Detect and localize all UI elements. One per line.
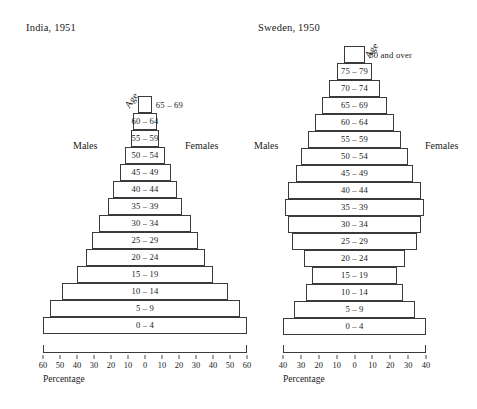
pyramid-bar: 10 – 14 bbox=[62, 283, 229, 300]
age-group-label: 20 – 24 bbox=[131, 253, 158, 262]
pyramid-bar-row: 15 – 19 bbox=[283, 267, 426, 284]
pyramid-bar-row: 60 – 64 bbox=[283, 114, 426, 131]
pyramid-bar-row: 15 – 19 bbox=[43, 266, 247, 283]
pyramid-bar-row: 0 – 4 bbox=[43, 317, 247, 334]
pyramid-bar: 0 – 4 bbox=[43, 317, 247, 334]
pyramid-bar: 35 – 39 bbox=[285, 199, 424, 216]
pyramid-bar: 15 – 19 bbox=[312, 267, 398, 284]
pyramid-bar-row: 25 – 29 bbox=[283, 233, 426, 250]
pyramid-bar: 25 – 29 bbox=[292, 233, 417, 250]
pyramid-bar-row: 40 – 44 bbox=[43, 181, 247, 198]
age-group-label: 35 – 39 bbox=[131, 202, 158, 211]
age-group-label: 10 – 14 bbox=[131, 287, 158, 296]
pyramid-bar-row: 30 – 34 bbox=[43, 215, 247, 232]
age-group-label: 25 – 29 bbox=[131, 236, 158, 245]
axis-tick-label: 10 bbox=[124, 361, 132, 370]
axis-tick bbox=[162, 355, 163, 359]
axis-tick bbox=[213, 355, 214, 359]
axis-tick-label: 10 bbox=[158, 361, 166, 370]
axis-tick-label: 0 bbox=[143, 361, 147, 370]
pyramid-panel-india: India, 1951 Age Males Females 0 – 45 – 9… bbox=[0, 0, 250, 409]
pyramid-bar: 40 – 44 bbox=[113, 181, 178, 198]
pyramid-bar: 25 – 29 bbox=[92, 232, 197, 249]
pyramid-bar: 0 – 4 bbox=[283, 318, 426, 335]
axis-caption-sweden: Percentage bbox=[283, 374, 325, 384]
pyramid-bar: 75 – 79 bbox=[337, 63, 373, 80]
pyramid-bar: 30 – 34 bbox=[99, 215, 191, 232]
age-group-label: 65 – 69 bbox=[341, 101, 368, 110]
pyramid-bar: 20 – 24 bbox=[86, 249, 205, 266]
axis-cap-right bbox=[425, 345, 426, 353]
age-group-label: 65 – 69 bbox=[156, 100, 183, 109]
age-group-label: 40 – 44 bbox=[131, 185, 158, 194]
age-group-label: 0 – 4 bbox=[136, 321, 154, 330]
axis-tick-label: 30 bbox=[297, 361, 305, 370]
axis-tick bbox=[76, 355, 77, 359]
pyramid-bar: 50 – 54 bbox=[301, 148, 408, 165]
pyramid-bar: 80 and over bbox=[344, 46, 365, 63]
age-group-label: 50 – 54 bbox=[131, 151, 158, 160]
age-group-label: 45 – 49 bbox=[131, 168, 158, 177]
pyramid-bar-row: 70 – 74 bbox=[283, 80, 426, 97]
pyramid-bar: 60 – 64 bbox=[133, 113, 157, 130]
pyramid-bar: 55 – 59 bbox=[131, 130, 158, 147]
age-group-label: 55 – 59 bbox=[131, 134, 158, 143]
pyramid-bar: 15 – 19 bbox=[77, 266, 213, 283]
axis-cap-right bbox=[246, 345, 247, 353]
axis-tick bbox=[128, 355, 129, 359]
age-group-label: 70 – 74 bbox=[341, 84, 368, 93]
age-group-label: 5 – 9 bbox=[345, 305, 363, 314]
axis-tick-label: 40 bbox=[73, 361, 81, 370]
age-group-label: 75 – 79 bbox=[341, 67, 368, 76]
pyramid-bar-row: 10 – 14 bbox=[43, 283, 247, 300]
age-group-label: 60 – 64 bbox=[131, 117, 158, 126]
pyramid-bar-row: 0 – 4 bbox=[283, 318, 426, 335]
chart-title-sweden: Sweden, 1950 bbox=[258, 22, 320, 33]
pyramid-bar: 65 – 69 bbox=[322, 97, 386, 114]
pyramid-bars-india: 0 – 45 – 910 – 1415 – 1920 – 2425 – 2930… bbox=[43, 96, 247, 334]
axis-tick-label: 50 bbox=[226, 361, 234, 370]
axis-tick bbox=[390, 355, 391, 359]
age-group-label: 55 – 59 bbox=[341, 135, 368, 144]
axis-tick bbox=[43, 355, 44, 359]
axis-tick-label: 10 bbox=[332, 361, 340, 370]
axis-tick-label: 40 bbox=[279, 361, 287, 370]
axis-tick-label: 30 bbox=[404, 361, 412, 370]
pyramid-bar-row: 5 – 9 bbox=[283, 301, 426, 318]
axis-tick bbox=[196, 355, 197, 359]
age-group-label: 5 – 9 bbox=[136, 304, 154, 313]
pyramid-bar: 45 – 49 bbox=[120, 164, 171, 181]
axis-tick bbox=[300, 355, 301, 359]
axis-tick-label: 40 bbox=[209, 361, 217, 370]
pyramid-bars-sweden: 0 – 45 – 910 – 1415 – 1920 – 2425 – 2930… bbox=[283, 46, 426, 335]
axis-tick-label: 20 bbox=[315, 361, 323, 370]
pyramid-bar-row: 30 – 34 bbox=[283, 216, 426, 233]
pyramid-bar-row: 75 – 79 bbox=[283, 63, 426, 80]
pyramid-bar-row: 50 – 54 bbox=[43, 147, 247, 164]
pyramid-bar: 35 – 39 bbox=[108, 198, 183, 215]
axis-tick bbox=[426, 355, 427, 359]
females-label-sweden: Females bbox=[425, 140, 458, 151]
axis-line bbox=[43, 352, 247, 353]
age-group-label: 40 – 44 bbox=[341, 186, 368, 195]
pyramid-bar: 20 – 24 bbox=[304, 250, 404, 267]
males-label-sweden: Males bbox=[254, 140, 278, 151]
pyramid-bar-row: 65 – 69 bbox=[283, 97, 426, 114]
age-group-label: 25 – 29 bbox=[341, 237, 368, 246]
axis-tick bbox=[94, 355, 95, 359]
pyramid-bar-row: 5 – 9 bbox=[43, 300, 247, 317]
pyramid-bar: 40 – 44 bbox=[288, 182, 420, 199]
axis-tick bbox=[247, 355, 248, 359]
axis-tick bbox=[145, 355, 146, 359]
age-group-label: 10 – 14 bbox=[341, 288, 368, 297]
axis-tick-label: 40 bbox=[422, 361, 430, 370]
axis-tick bbox=[372, 355, 373, 359]
axis-tick-label: 20 bbox=[107, 361, 115, 370]
pyramid-bar-row: 35 – 39 bbox=[43, 198, 247, 215]
age-group-label: 35 – 39 bbox=[341, 203, 368, 212]
pyramid-bar: 65 – 69 bbox=[138, 96, 152, 113]
age-group-label: 45 – 49 bbox=[341, 169, 368, 178]
axis-tick bbox=[230, 355, 231, 359]
pyramid-bar: 30 – 34 bbox=[288, 216, 420, 233]
pyramid-bar: 5 – 9 bbox=[50, 300, 240, 317]
